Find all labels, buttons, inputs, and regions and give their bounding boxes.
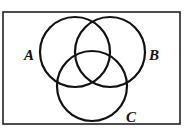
venn-diagram: A B C — [0, 0, 184, 129]
universal-set-frame — [3, 12, 180, 124]
set-c-label: C — [126, 109, 137, 125]
set-b-label: B — [148, 47, 159, 63]
set-a-label: A — [23, 47, 34, 63]
